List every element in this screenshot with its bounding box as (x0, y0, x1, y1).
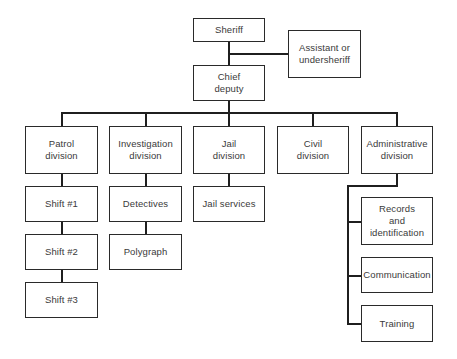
node-patrol-division: Patrol division (25, 126, 98, 174)
node-detectives: Detectives (109, 186, 182, 222)
connector-to-communication (347, 275, 361, 277)
connector-admin-left (347, 185, 398, 187)
node-shift-2: Shift #2 (25, 234, 98, 270)
node-shift-1: Shift #1 (25, 186, 98, 222)
connector-to-training (347, 323, 361, 325)
node-polygraph: Polygraph (109, 234, 182, 270)
node-jail-services: Jail services (193, 186, 265, 222)
node-communication: Communication (361, 257, 433, 293)
connector-detectives-polygraph (145, 222, 147, 234)
node-investigation-division: Investigation division (109, 126, 182, 174)
node-assistant-undersheriff: Assistant or undersheriff (288, 30, 361, 78)
connector-patrol-shift1 (61, 174, 63, 186)
node-training: Training (361, 305, 433, 342)
connector-to-admin (396, 112, 398, 126)
node-jail-division: Jail division (193, 126, 265, 174)
connector-to-investigation (145, 112, 147, 126)
node-sheriff: Sheriff (193, 18, 265, 42)
connector-to-civil (312, 112, 314, 126)
connector-shift1-shift2 (61, 222, 63, 234)
node-records-identification: Records and identification (361, 197, 433, 245)
node-chief-deputy: Chief deputy (193, 65, 265, 101)
org-chart: Sheriff Assistant or undersheriff Chief … (0, 0, 457, 359)
connector-investigation-detectives (145, 174, 147, 186)
connector-shift2-shift3 (61, 270, 63, 282)
node-shift-3: Shift #3 (25, 282, 98, 318)
connector-to-jail (228, 112, 230, 126)
connector-sheriff-assistant (228, 53, 288, 55)
node-civil-division: Civil division (277, 126, 349, 174)
connector-admin-spine (347, 185, 349, 325)
connector-to-records (347, 221, 361, 223)
connector-jail-jailservices (228, 174, 230, 186)
connector-to-patrol (61, 112, 63, 126)
node-administrative-division: Administrative division (361, 126, 433, 174)
